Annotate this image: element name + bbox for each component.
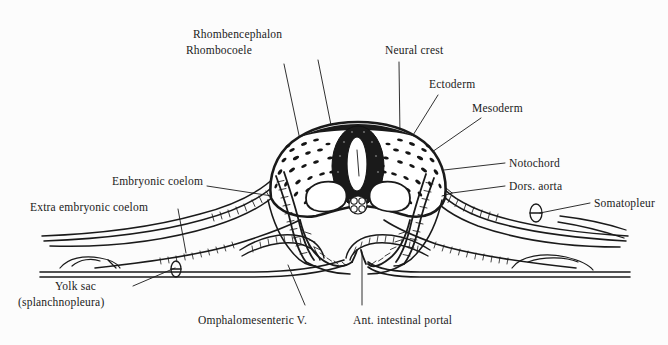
label-neural-crest: Neural crest — [385, 43, 443, 57]
dorsal-aorta-right — [370, 182, 411, 212]
neural-canal-rhombocoele — [347, 137, 367, 191]
label-somatopleur: Somatopleur — [594, 196, 655, 210]
label-yolk-sac-splanchnopleura: (splanchnopleura) — [18, 295, 104, 309]
label-yolk-sac: Yolk sac — [55, 279, 96, 293]
label-notochord: Notochord — [509, 156, 560, 170]
label-embryonic-coelom: Embryonic coelom — [112, 174, 203, 188]
label-rhombencephalon: Rhombencephalon — [193, 27, 282, 41]
label-omphalomesenteric-vein: Omphalomesenteric V. — [198, 313, 307, 327]
label-ant-intestinal-portal: Ant. intestinal portal — [353, 313, 452, 327]
label-dors-aorta: Dors. aorta — [509, 179, 562, 193]
notochord — [349, 196, 367, 214]
label-ectoderm: Ectoderm — [429, 77, 475, 91]
omphalomesenteric-vein-oval — [171, 261, 181, 277]
membrane-tips-right — [558, 216, 626, 238]
embryo-cross-section-figure: Rhombencephalon Rhombocoele Neural crest… — [0, 0, 668, 345]
label-mesoderm: Mesoderm — [472, 101, 523, 115]
label-extra-embryonic-coelom: Extra embryonic coelom — [30, 200, 148, 214]
splanchnopleure-fold-left — [300, 220, 352, 266]
dorsal-aorta-left — [306, 182, 347, 212]
label-rhombocoele: Rhombocoele — [186, 43, 252, 57]
diagram-canvas — [0, 0, 668, 345]
somatopleure-vessel-oval — [530, 204, 542, 222]
